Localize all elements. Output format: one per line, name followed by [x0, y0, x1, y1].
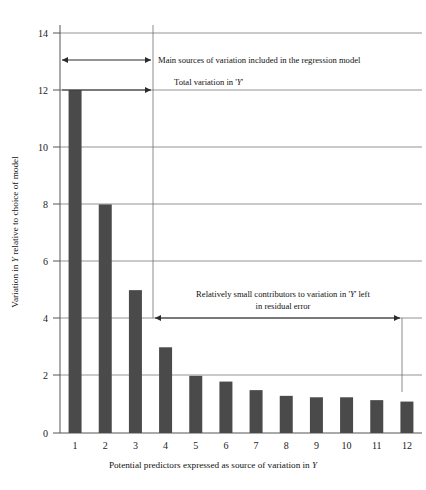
- x-axis-title-italic-y: Y: [312, 460, 318, 470]
- total-variation-prefix: Total variation in ': [174, 77, 237, 87]
- x-tick-label: 1: [73, 440, 78, 451]
- x-tick-label: 9: [314, 440, 319, 451]
- bar: [340, 397, 353, 433]
- main-sources-label: Main sources of variation included in th…: [158, 55, 361, 65]
- bar: [69, 90, 82, 433]
- bar: [250, 390, 263, 433]
- y-tick-label: 10: [38, 142, 48, 153]
- x-tick-label: 4: [163, 440, 168, 451]
- x-tick-label: 6: [223, 440, 228, 451]
- bar: [159, 347, 172, 433]
- x-tick-label: 7: [254, 440, 259, 451]
- annotation-residual-error: Relatively small contributors to variati…: [155, 289, 400, 318]
- y-axis-ticks: [53, 33, 60, 433]
- bar: [280, 396, 293, 433]
- x-tick-label: 8: [284, 440, 289, 451]
- bar: [129, 290, 142, 433]
- bar: [99, 204, 112, 433]
- residual-line1-suffix: ' left: [355, 289, 371, 299]
- y-tick-label: 4: [43, 313, 48, 324]
- x-tick-label: 5: [193, 440, 198, 451]
- x-tick-label: 2: [103, 440, 108, 451]
- y-tick-label: 6: [43, 256, 48, 267]
- y-axis-title-suffix: relative to choice of model: [10, 156, 20, 257]
- bar-series: [69, 90, 414, 433]
- y-axis-tick-labels: 0 2 4 6 8 10 12 14: [38, 28, 48, 439]
- bar: [189, 376, 202, 433]
- x-axis-title: Potential predictors expressed as source…: [109, 460, 318, 470]
- annotation-main-sources: Main sources of variation included in th…: [62, 55, 361, 65]
- y-axis-title-prefix: Variation in: [10, 262, 20, 307]
- total-variation-suffix: ': [242, 77, 244, 87]
- chart-figure: 0 2 4 6 8 10 12 14 123456789101112 Main …: [0, 0, 426, 490]
- y-tick-label: 12: [38, 85, 48, 96]
- total-variation-label: Total variation in 'Y': [174, 77, 244, 87]
- x-axis-tick-labels: 123456789101112: [73, 440, 412, 451]
- bar: [400, 402, 413, 433]
- y-axis-title: Variation in Y relative to choice of mod…: [10, 156, 20, 308]
- bar: [310, 397, 323, 433]
- bar-chart-svg: 0 2 4 6 8 10 12 14 123456789101112 Main …: [0, 0, 426, 490]
- x-axis-title-prefix: Potential predictors expressed as source…: [109, 460, 312, 470]
- x-tick-label: 3: [133, 440, 138, 451]
- y-tick-label: 8: [43, 199, 48, 210]
- x-tick-label: 11: [372, 440, 382, 451]
- bar: [219, 382, 232, 433]
- residual-line1-prefix: Relatively small contributors to variati…: [196, 289, 350, 299]
- y-tick-label: 0: [43, 428, 48, 439]
- x-tick-label: 10: [342, 440, 352, 451]
- x-tick-label: 12: [402, 440, 412, 451]
- y-tick-label: 2: [43, 370, 48, 381]
- bar: [370, 400, 383, 433]
- y-tick-label: 14: [38, 28, 48, 39]
- residual-error-label-line2: in residual error: [256, 301, 311, 311]
- residual-error-label-line1: Relatively small contributors to variati…: [196, 289, 370, 299]
